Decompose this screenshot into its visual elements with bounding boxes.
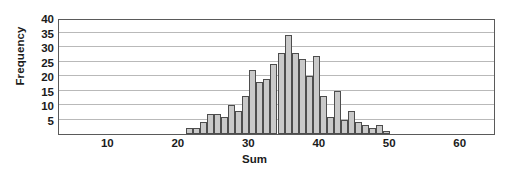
bar — [383, 131, 390, 134]
bar — [313, 56, 320, 134]
bar — [200, 122, 207, 134]
bar — [249, 70, 256, 134]
bar — [292, 53, 299, 134]
y-tick-35: 35 — [26, 29, 54, 39]
bar — [320, 96, 327, 134]
bar — [214, 114, 221, 134]
y-tick-25: 25 — [26, 58, 54, 68]
bar — [334, 91, 341, 135]
bar — [278, 53, 285, 134]
x-tick-60: 60 — [440, 137, 480, 149]
x-tick-50: 50 — [369, 137, 409, 149]
bar — [263, 79, 270, 134]
y-tick-5: 5 — [26, 116, 54, 126]
bar-series — [59, 20, 494, 134]
x-tick-20: 20 — [158, 137, 198, 149]
bar — [369, 128, 376, 134]
bar — [228, 105, 235, 134]
bar — [327, 117, 334, 134]
y-tick-20: 20 — [26, 72, 54, 82]
histogram-figure: Frequency 510152025303540 102030405060 S… — [0, 0, 509, 180]
bar — [193, 128, 200, 134]
x-axis-tick-labels: 102030405060 — [0, 137, 509, 153]
y-tick-30: 30 — [26, 43, 54, 53]
bar — [207, 114, 214, 134]
bar — [355, 122, 362, 134]
x-axis-label: Sum — [0, 153, 509, 165]
bar — [341, 120, 348, 135]
bar — [242, 96, 249, 134]
bar — [362, 125, 369, 134]
bar — [235, 111, 242, 134]
bar — [285, 35, 292, 134]
x-tick-10: 10 — [87, 137, 127, 149]
y-tick-15: 15 — [26, 87, 54, 97]
bar — [348, 111, 355, 134]
x-tick-40: 40 — [299, 137, 339, 149]
bar — [270, 64, 277, 134]
bar — [256, 82, 263, 134]
y-tick-40: 40 — [26, 14, 54, 24]
y-tick-10: 10 — [26, 101, 54, 111]
bar — [299, 59, 306, 134]
bar — [306, 76, 313, 134]
bar — [186, 128, 193, 134]
bar — [376, 125, 383, 134]
x-tick-30: 30 — [228, 137, 268, 149]
plot-area — [58, 19, 495, 135]
bar — [221, 117, 228, 134]
